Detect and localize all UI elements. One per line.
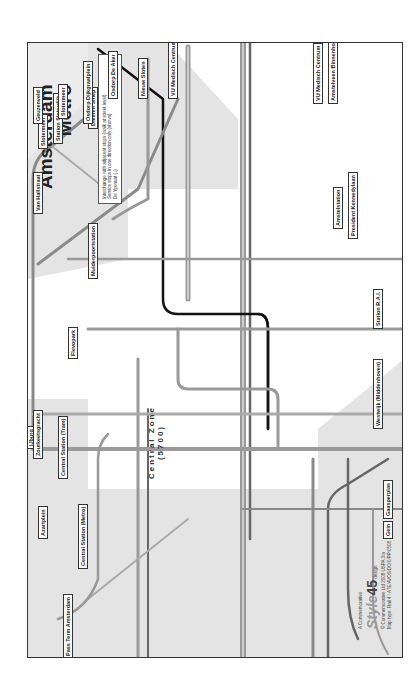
central-zone-label: Central Zone (5700) <box>148 406 166 479</box>
terminal-vu-medisch-centrum-16[interactable]: VU Medisch Centrum <box>168 42 178 99</box>
terminal-gein[interactable]: Gein <box>383 521 393 539</box>
terminal-van-hallstraat[interactable]: Van Hallstraat <box>33 172 43 214</box>
terminal-osdorp-de-aker[interactable]: Osdorp De Aker <box>108 51 118 99</box>
zone-code: (5700) <box>157 406 166 479</box>
footer: A Commemorative Style45 design © Commemo… <box>358 541 392 629</box>
terminal-muiderpoortstation[interactable]: Muiderpoortstation <box>88 223 98 279</box>
terminal-amstelstation[interactable]: Amstelstation <box>333 187 343 229</box>
terminal-station-rai[interactable]: Station R.A.I. <box>373 289 383 329</box>
footer-maptype: Map type: Rail 4 / ATE/AVOS/DO/0/PP/0508 <box>387 541 393 629</box>
brand-logo: Style <box>364 596 380 629</box>
terminal-flevopark[interactable]: Flevopark <box>68 327 78 359</box>
terminal-nieuw-sloten[interactable]: Nieuw Sloten <box>138 58 148 99</box>
brand-number: 45 <box>364 580 380 596</box>
terminal-gaasperplas[interactable]: Gaasperplas <box>383 480 393 519</box>
terminal-pass-term-amsterdam[interactable]: Pass Term Amsterdam <box>63 594 73 658</box>
terminal-president-kennedylaan[interactable]: President Kennedylaan <box>348 172 358 239</box>
terminal-central-station-metro[interactable]: Central Station (Metro) <box>78 504 88 569</box>
map-frame: Amsterdam Metro Interchange with adjacen… <box>27 42 403 658</box>
terminal-vu-medisch-centrum-24[interactable]: VU Medisch Centrum <box>313 43 323 104</box>
terminal-slotermeer-7[interactable]: Slotermeer <box>58 84 68 119</box>
terminal-zoutkeetsgracht[interactable]: Zoutkeetsgracht <box>33 410 43 459</box>
footer-copyright: © Commemorative Ltd 2008 USPA 3/a <box>381 541 387 629</box>
terminal-azartplein[interactable]: Azartplein <box>38 506 48 539</box>
brand-suffix: design <box>373 565 378 578</box>
terminal-amstelveen-binnenhof[interactable]: Amstelveen Binnenhof <box>328 42 338 104</box>
map-canvas: Amsterdam Metro Interchange with adjacen… <box>28 43 403 658</box>
terminal-westwijk[interactable]: Westwijk (Middenhoven) <box>373 359 383 429</box>
terminal-geuzenveld[interactable]: Geuzenveld <box>33 87 43 124</box>
terminal-central-station-tram[interactable]: Central Station (Tram) <box>58 416 68 479</box>
terminal-osdorp-dijkgraafplein[interactable]: Osdorp Dijkgraafplein <box>83 61 93 124</box>
